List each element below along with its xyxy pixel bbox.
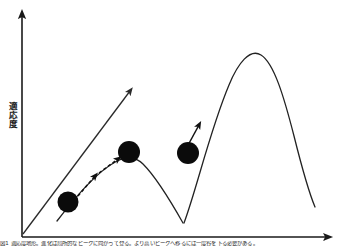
- y-axis-label: 適応度: [7, 102, 19, 129]
- global-peak-curve: [184, 53, 315, 223]
- figure-root: 適応度 図1 適応度地形。進化は局所的なピークに向かって登る。より高いピークへ移…: [0, 0, 338, 247]
- fitness-landscape-diagram: [0, 0, 338, 247]
- ball-start: [58, 192, 79, 213]
- ball-global-slope: [177, 142, 199, 164]
- local-peak-curve: [57, 158, 183, 223]
- ball-local-peak: [118, 141, 140, 163]
- figure-caption: 図1 適応度地形。進化は局所的なピークに向かって登る。より高いピークへ移るには一…: [0, 241, 338, 246]
